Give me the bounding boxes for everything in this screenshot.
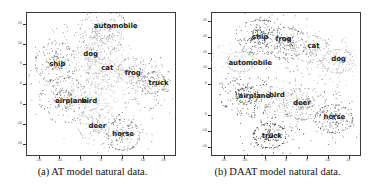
cluster-label-dog: dog [331, 55, 346, 62]
cluster-label-deer: deer [88, 122, 106, 129]
y-tick-label: -5 [204, 114, 207, 117]
y-tick-label: -15 [16, 142, 22, 145]
x-tick-label: 5 [121, 159, 123, 162]
panel-b: 252015105-5-10-15-15-10-5051015 shipfrog… [185, 0, 370, 192]
plot-area-b: 252015105-5-10-15-15-10-5051015 shipfrog… [211, 12, 361, 156]
y-tick-label: 15 [203, 51, 207, 54]
cluster-label-cat: cat [308, 43, 320, 50]
caption-b: (b) DAAT model natural data. [185, 166, 370, 178]
cluster-label-cat: cat [101, 65, 113, 72]
y-tick-mark [208, 21, 211, 22]
caption-a: (a) AT model natural data. [0, 166, 185, 178]
y-tick-label: 5 [205, 82, 207, 85]
x-tick-label: -10 [242, 159, 248, 162]
y-tick-mark [23, 64, 26, 65]
y-tick-label: -15 [201, 145, 207, 148]
y-tick-label: 5 [20, 62, 22, 65]
y-tick-mark [208, 84, 211, 85]
cluster-label-ship: ship [252, 34, 268, 41]
cluster-label-deer: deer [293, 99, 311, 106]
x-tick-label: -5 [263, 159, 266, 162]
x-tick-label: 5 [306, 159, 308, 162]
y-tick-mark [208, 115, 211, 116]
y-tick-label: -10 [16, 122, 22, 125]
y-tick-label: -5 [19, 102, 22, 105]
cluster-label-automobile: automobile [228, 60, 272, 67]
y-tick-mark [208, 68, 211, 69]
y-tick-label: 10 [203, 67, 207, 70]
y-tick-mark [208, 53, 211, 54]
y-tick-label: 20 [203, 35, 207, 38]
x-tick-label: -10 [57, 159, 63, 162]
y-tick-label: -10 [201, 129, 207, 132]
y-tick-mark [23, 104, 26, 105]
x-tick-label: 0 [100, 159, 102, 162]
x-tick-label: 0 [285, 159, 287, 162]
x-tick-label: -5 [78, 159, 81, 162]
cluster-label-truck: truck [148, 79, 168, 86]
cluster-label-frog: frog [125, 70, 141, 77]
y-tick-mark [23, 44, 26, 45]
y-tick-mark [23, 84, 26, 85]
figure-container: 151050-5-10-15-15-10-5051015 automobiles… [0, 0, 370, 192]
cluster-label-bird: bird [269, 91, 284, 98]
y-tick-mark [208, 131, 211, 132]
x-tick-label: 15 [346, 159, 350, 162]
x-tick-label: 10 [325, 159, 329, 162]
y-tick-label: 10 [18, 42, 22, 45]
y-tick-mark [208, 147, 211, 148]
plot-area-a: 151050-5-10-15-15-10-5051015 automobiles… [26, 12, 176, 156]
x-tick-label: -15 [36, 159, 42, 162]
x-tick-label: 15 [161, 159, 165, 162]
cluster-label-airplane: airplane [239, 92, 271, 99]
y-tick-label: 15 [18, 22, 22, 25]
cluster-label-dog: dog [83, 50, 98, 57]
x-tick-label: -15 [221, 159, 227, 162]
y-tick-mark [23, 144, 26, 145]
cluster-label-truck: truck [262, 132, 282, 139]
cluster-label-bird: bird [82, 98, 97, 105]
cluster-label-ship: ship [49, 61, 65, 68]
cluster-label-automobile: automobile [94, 23, 138, 30]
cluster-label-frog: frog [276, 35, 292, 42]
y-tick-mark [23, 124, 26, 125]
cluster-label-horse: horse [112, 131, 134, 138]
y-tick-label: 0 [20, 82, 22, 85]
y-tick-mark [208, 37, 211, 38]
y-tick-label: 25 [203, 20, 207, 23]
panel-a: 151050-5-10-15-15-10-5051015 automobiles… [0, 0, 185, 192]
x-tick-label: 10 [140, 159, 144, 162]
cluster-label-horse: horse [323, 113, 345, 120]
y-tick-mark [23, 24, 26, 25]
